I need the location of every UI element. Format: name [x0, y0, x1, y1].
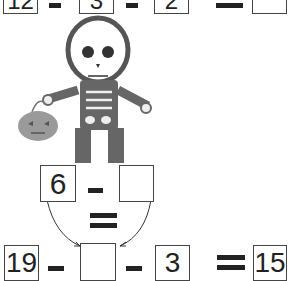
row2-box-c: 3: [155, 245, 190, 281]
middle-equals: [90, 213, 117, 233]
row1-minus-2: [126, 3, 138, 8]
row2-minus-1: [48, 266, 64, 271]
middle-minus: [88, 188, 103, 193]
row1-equals: [216, 3, 243, 8]
row1-minus-1: [49, 3, 61, 8]
row1-answer-box[interactable]: [252, 0, 287, 14]
row2-equals: [217, 255, 245, 275]
skeleton-illustration: [0, 0, 289, 281]
row2-box-b[interactable]: [80, 243, 116, 281]
row1-box-c: 2: [154, 0, 189, 14]
row2-minus-2: [126, 266, 142, 271]
middle-box-b[interactable]: [119, 165, 154, 202]
row1-box-a: 12: [3, 0, 38, 14]
row1-box-b: 3: [79, 0, 114, 14]
middle-box-a: 6: [40, 165, 76, 202]
row2-box-a: 19: [4, 245, 39, 281]
row2-result-box: 15: [253, 245, 287, 281]
